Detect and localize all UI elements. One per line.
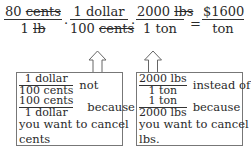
connector-text: because: [193, 101, 241, 113]
wrong-fraction: 100 cents1 dollar: [19, 96, 73, 118]
note-box-cents: 1 dollar100 centsnot 100 cents1 dollarbe…: [16, 72, 123, 146]
explanation-text: you want to cancel: [19, 118, 120, 130]
correct-fraction: 1 dollar100 cents: [19, 74, 73, 96]
explanation-text: cents: [19, 133, 120, 145]
connector-text: not: [79, 79, 98, 91]
explanation-text: lbs.: [139, 133, 240, 145]
wrong-fraction: 1 ton2000 lbs: [139, 96, 187, 118]
connector-text: instead of: [193, 79, 250, 91]
up-arrow-left: [89, 51, 106, 73]
note-box-lbs: 2000 lbs1 toninstead of 1 ton2000 lbsbec…: [136, 72, 243, 146]
explanation-text: you want to cancel: [139, 118, 240, 130]
up-arrow-right: [145, 51, 162, 73]
correct-fraction: 2000 lbs1 ton: [139, 74, 187, 96]
connector-text: because: [87, 101, 135, 113]
